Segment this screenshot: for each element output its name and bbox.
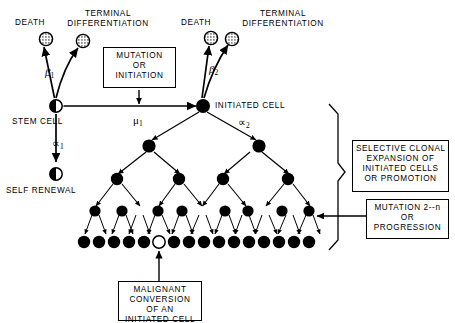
self-renewal-label: SELF RENEWAL [6, 186, 76, 196]
terminal-differentiation-label-right: TERMINAL DIFFERENTIATION [242, 9, 324, 28]
tree-node-level3 [116, 205, 127, 216]
tree-node-level2 [173, 173, 185, 185]
tree-edge [112, 215, 119, 234]
tree-node-level3 [219, 205, 230, 216]
tree-edge [262, 152, 289, 174]
tree-leaf-node [93, 236, 105, 248]
tree-edge [224, 152, 250, 174]
tree-leaf-node [273, 236, 285, 248]
clonal-expansion-tree [78, 112, 320, 248]
tree-edge [215, 215, 222, 234]
tree-node-level2 [282, 173, 294, 185]
tree-edge [159, 184, 175, 206]
self-renewal-node [50, 168, 62, 180]
tree-edge [126, 215, 133, 234]
tree-leaf-node [183, 236, 195, 248]
tree-edge [186, 215, 193, 234]
tree-edge [122, 184, 140, 206]
tree-node-level2 [111, 173, 123, 185]
tree-edge [129, 215, 136, 234]
tree-node-level2 [217, 173, 229, 185]
initiated-cell-node [196, 99, 210, 113]
terminal-differentiation-cell-right [225, 32, 238, 45]
tree-node-level3 [176, 205, 187, 216]
tree-edge [118, 152, 146, 174]
death-cell-right [204, 31, 217, 44]
tree-edge [228, 184, 246, 206]
tree-edge [266, 184, 284, 206]
tree-node-level3 [89, 205, 100, 216]
tree-edge [96, 184, 113, 206]
tree-leaf-node [213, 236, 225, 248]
tree-edge [99, 215, 106, 234]
beta1-terminal-diff-arrow [56, 48, 78, 98]
malignant-cell-node [153, 236, 165, 248]
tree-leaf-node [78, 236, 90, 248]
stem-cell-node [50, 100, 62, 112]
tree-leaf-node [243, 236, 255, 248]
mutation-progression-box[interactable]: MUTATION 2--n OR PROGRESSION [366, 199, 449, 239]
tree-edge [278, 215, 286, 234]
tree-edge [206, 215, 213, 234]
tree-edge [255, 215, 262, 234]
clonal-expansion-brace [329, 104, 345, 250]
tree-edge [172, 215, 179, 234]
tree-edge [152, 112, 199, 140]
tree-leaf-node [123, 236, 135, 248]
diagram-canvas: DEATH TERMINAL DIFFERENTIATION DEATH TER… [0, 0, 455, 323]
malignant-conversion-box[interactable]: MALIGNANT CONVERSION OF AN INITIATED CEL… [118, 281, 202, 321]
mutation-initiation-box[interactable]: MUTATION OR INITIATION [103, 47, 176, 88]
tree-edge [293, 184, 310, 206]
beta1-symbol: β1 [45, 66, 54, 80]
tree-leaf-node [288, 236, 300, 248]
tree-node-level3 [276, 205, 287, 216]
terminal-differentiation-label-left: TERMINAL DIFFERENTIATION [67, 9, 149, 28]
alpha1-symbol: ∝1 [52, 137, 64, 151]
death-cell-left [39, 32, 52, 45]
tree-leaf-node [108, 236, 120, 248]
tree-edge [293, 215, 300, 234]
tree-edge [154, 152, 180, 174]
tree-edge [85, 215, 92, 234]
tree-node-level3 [303, 205, 314, 216]
beta2-symbol: β2 [209, 63, 218, 77]
tree-leaf-node [258, 236, 270, 248]
death-label-left: DEATH [15, 18, 45, 28]
tree-edge [184, 184, 202, 206]
stem-cell-label: STEM CELL [12, 117, 63, 127]
tree-node-level1 [252, 139, 265, 152]
selective-clonal-expansion-box[interactable]: SELECTIVE CLONAL EXPANSION OF INITIATED … [352, 140, 449, 192]
tree-edge [269, 215, 277, 234]
tree-edge [229, 215, 236, 234]
tree-edge [235, 215, 242, 234]
terminal-differentiation-cell-left [76, 34, 89, 47]
tree-node-level1 [142, 139, 155, 152]
mu1-symbol: μ1 [133, 114, 143, 128]
tree-leaf-node [198, 236, 210, 248]
tree-edge [148, 215, 155, 234]
death-label-right: DEATH [181, 18, 211, 28]
tree-edge [162, 215, 170, 234]
tree-leaf-node [168, 236, 180, 248]
tree-edge [313, 215, 320, 234]
tree-node-level3 [152, 205, 163, 216]
tree-edge [249, 215, 256, 234]
tree-leaf-node [138, 236, 150, 248]
tree-leaf-node [228, 236, 240, 248]
tree-node-level3 [242, 205, 253, 216]
tree-leaf-node [303, 236, 315, 248]
initiated-cell-label: INITIATED CELL [215, 101, 285, 111]
tree-edge [203, 184, 220, 206]
alpha2-symbol: ∝2 [238, 116, 250, 130]
